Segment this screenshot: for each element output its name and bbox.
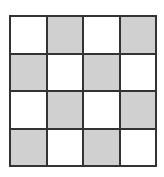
grid-cell-r2-c0-empty (10, 91, 47, 129)
grid-cell-r1-c1-empty (47, 54, 84, 92)
grid-cell-r2-c1-shaded (47, 91, 84, 129)
grid-cell-r0-c3-shaded (120, 16, 157, 54)
grid-cell-r3-c0-shaded (10, 129, 47, 167)
grid-cell-r3-c3-empty (120, 129, 157, 167)
grid-cell-r3-c2-shaded (83, 129, 120, 167)
grid-cell-r0-c0-empty (10, 16, 47, 54)
grid-cell-r3-c1-empty (47, 129, 84, 167)
grid-cell-r1-c3-empty (120, 54, 157, 92)
grid-cell-r2-c3-shaded (120, 91, 157, 129)
grid-cell-r0-c2-empty (83, 16, 120, 54)
checkerboard-grid (9, 15, 157, 167)
grid-cell-r1-c0-shaded (10, 54, 47, 92)
grid-cell-r2-c2-empty (83, 91, 120, 129)
grid-cell-r0-c1-shaded (47, 16, 84, 54)
grid-cell-r1-c2-shaded (83, 54, 120, 92)
